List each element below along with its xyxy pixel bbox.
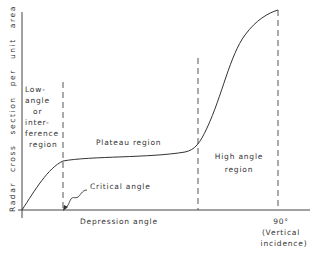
vertical-note-line: (Vertical <box>253 227 309 238</box>
backscatter-curve <box>22 10 278 210</box>
label-line: Low- <box>25 84 59 95</box>
label-line: angle <box>25 95 59 106</box>
y-axis-label: Radar cross section per unit area σ° <box>8 0 17 212</box>
label-line: inter- <box>25 117 59 128</box>
ninety-degree-tick-label: 90° <box>253 216 309 227</box>
low-angle-region-label: Low- angle or inter- ference region <box>25 84 59 150</box>
label-line: region <box>25 139 59 150</box>
critical-angle-label: Critical angle <box>90 181 151 192</box>
plateau-region-label: Plateau region <box>96 137 161 148</box>
x-axis-label: Depression angle <box>80 216 158 227</box>
incidence-note-line: incidence) <box>253 238 309 249</box>
vertical-incidence-label: 90° (Vertical incidence) <box>253 216 309 249</box>
label-line: High angle <box>213 151 265 162</box>
label-line: region <box>213 164 265 175</box>
high-angle-region-label: High angle region <box>213 151 265 175</box>
critical-angle-arrow <box>65 190 87 209</box>
radar-backscatter-diagram: Radar cross section per unit area σ° Low… <box>0 0 327 254</box>
label-line: ference <box>25 128 59 139</box>
label-line: or <box>25 106 59 117</box>
